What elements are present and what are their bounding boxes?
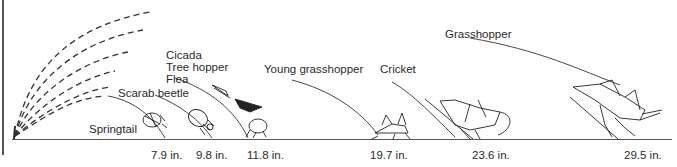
label-young-grasshopper: Young grasshopper bbox=[264, 63, 363, 76]
diagram-graphics bbox=[0, 0, 677, 167]
jump-distance-diagram: Springtail Scarab beetle Cicada Tree hop… bbox=[0, 0, 677, 167]
dashed-trajectories bbox=[15, 12, 150, 136]
scarab-beetle-illustration bbox=[185, 106, 214, 135]
distance-label-flea: 11.8 in. bbox=[247, 149, 284, 161]
flea-cicada-treehopper-illustration bbox=[212, 85, 267, 138]
label-grasshopper: Grasshopper bbox=[445, 28, 511, 41]
cricket-illustration bbox=[425, 99, 510, 139]
distance-label-young-grasshopper: 19.7 in. bbox=[370, 149, 408, 161]
distance-label-scarab: 9.8 in. bbox=[196, 149, 227, 161]
label-cricket: Cricket bbox=[380, 63, 416, 76]
launch-point bbox=[14, 126, 15, 139]
distance-label-springtail: 7.9 in. bbox=[151, 149, 182, 161]
distance-label-cricket: 23.6 in. bbox=[472, 149, 510, 161]
label-scarab-beetle: Scarab beetle bbox=[118, 87, 189, 100]
label-springtail: Springtail bbox=[89, 123, 137, 136]
grasshopper-illustration bbox=[570, 80, 662, 139]
label-flea: Flea bbox=[166, 73, 188, 86]
distance-label-grasshopper: 29.5 in. bbox=[624, 149, 662, 161]
